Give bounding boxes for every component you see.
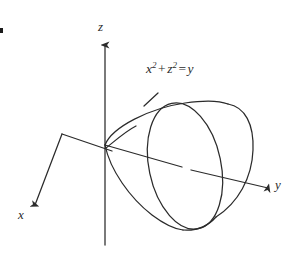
- cone-far-contour: [216, 104, 253, 217]
- equation-rhs: y: [188, 61, 194, 76]
- axis-y-line-near: [105, 145, 182, 167]
- axis-label-y: y: [275, 178, 281, 191]
- cone-upper-outline: [105, 101, 228, 145]
- equation-annotation: x2+z2=y: [146, 62, 194, 76]
- figure-canvas: x2+z2=y z x y: [0, 0, 298, 266]
- axis-label-z: z: [98, 20, 103, 33]
- axis-y-line-far: [191, 170, 268, 188]
- equation-leader-line: [144, 93, 158, 106]
- equation-plus: +: [157, 61, 168, 76]
- equation-equals: =: [177, 61, 188, 76]
- coordinate-diagram: [0, 0, 298, 266]
- equation-x-exponent: 2: [152, 60, 157, 70]
- scan-artifact-mark: [0, 28, 3, 33]
- axis-label-x: x: [18, 208, 24, 221]
- axis-x-line: [35, 134, 62, 205]
